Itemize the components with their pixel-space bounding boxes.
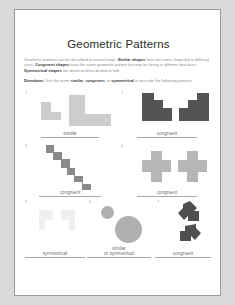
problem-1-number: 1. — [25, 91, 28, 95]
page-title: Geometric Patterns — [23, 38, 214, 50]
problem-2-number: 2. — [121, 91, 124, 95]
problem-6: 6. similar or symmetrical — [85, 198, 153, 264]
faint-pair-svg — [35, 206, 79, 246]
problem-4-answer[interactable]: congruent — [137, 190, 197, 197]
problem-4-shapes — [141, 150, 211, 184]
plus-crosses-svg — [141, 150, 211, 184]
worksheet-content: Geometric Patterns Geometric patterns ca… — [23, 16, 214, 291]
problem-1-answer[interactable]: similar — [41, 131, 99, 138]
problem-6-shapes — [95, 202, 153, 248]
problem-row-1: 1. similar 2. congruen — [23, 90, 214, 142]
arrow-pair-svg — [173, 200, 209, 248]
large-circle — [115, 216, 142, 243]
problem-4-number: 4. — [121, 144, 124, 148]
problem-5-answer[interactable]: symmetrical — [25, 251, 85, 258]
problem-1: 1. similar — [23, 90, 118, 142]
problem-5-shapes — [35, 206, 79, 246]
problem-7-number: 7. — [157, 200, 160, 204]
problem-6-answer-line2: or symmetrical — [104, 251, 134, 256]
small-circle — [101, 206, 114, 219]
mirrored-staircase-svg — [141, 92, 211, 124]
problem-row-3: 5. symmetrical 6. similar o — [23, 198, 214, 264]
problem-5-number: 5. — [25, 200, 28, 204]
problem-2-answer[interactable]: congruent — [137, 131, 197, 138]
problem-2-shapes — [141, 92, 211, 124]
problem-7-answer[interactable]: congruent — [155, 251, 211, 258]
problem-3-answer[interactable]: congruent — [39, 190, 101, 197]
problem-7-shapes — [173, 200, 209, 248]
problem-3-shapes — [41, 144, 105, 190]
problem-row-2: 3. congruent 4. — [23, 142, 214, 198]
intro-paragraph: Geometric patterns can be described in s… — [24, 57, 213, 73]
problem-3: 3. congruent — [23, 142, 118, 198]
diagonal-zigzag-svg — [41, 144, 105, 190]
problem-4: 4. congruent — [119, 142, 214, 198]
problem-3-number: 3. — [25, 144, 28, 148]
problem-2: 2. congruent — [119, 90, 214, 142]
problem-1-shapes — [39, 94, 113, 128]
l-shapes-svg — [39, 94, 113, 128]
directions-paragraph: Directions: Use the terms similar, congr… — [24, 78, 213, 83]
directions-label: Directions: — [24, 78, 44, 83]
worksheet-page: Geometric Patterns Geometric patterns ca… — [14, 9, 221, 296]
problem-6-number: 6. — [89, 200, 92, 204]
problem-5: 5. symmetrical — [23, 198, 87, 264]
problem-7: 7. congruent — [155, 198, 215, 264]
problem-6-answer[interactable]: similar or symmetrical — [87, 246, 151, 258]
